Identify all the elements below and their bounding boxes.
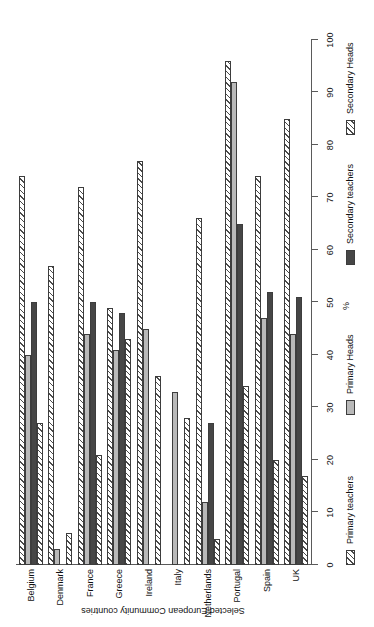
value-axis-line <box>311 40 312 565</box>
bar <box>267 292 273 565</box>
value-tick <box>311 144 318 145</box>
bar <box>225 61 231 565</box>
bar <box>48 266 54 565</box>
legend-item[interactable]: Secondary teachers <box>345 164 355 265</box>
legend-label: Primary teachers <box>345 476 355 544</box>
legend-swatch-icon <box>346 550 355 565</box>
legend-label: Primary Heads <box>345 334 355 394</box>
value-tick <box>311 302 318 303</box>
legend-item[interactable]: Primary Heads <box>345 334 355 415</box>
bar <box>196 219 202 566</box>
bar <box>296 297 302 565</box>
plot-area: 0102030405060708090100 BelgiumDenmarkFra… <box>16 40 311 565</box>
value-tick <box>311 564 318 565</box>
category-axis-title: Selected European Community countries <box>81 606 245 616</box>
legend-swatch-icon <box>346 400 355 415</box>
bar <box>19 177 25 566</box>
bar <box>54 549 60 565</box>
value-tick <box>311 459 318 460</box>
value-tick <box>311 354 318 355</box>
category-label: UK <box>291 569 301 582</box>
bar <box>66 534 72 566</box>
category-label: Italy <box>173 569 183 586</box>
bar <box>31 303 37 566</box>
value-tick <box>311 92 318 93</box>
bar <box>184 418 190 565</box>
value-tick <box>311 197 318 198</box>
bar <box>284 119 290 565</box>
category-label: Belgium <box>26 569 36 602</box>
bar <box>243 387 249 566</box>
bar <box>231 82 237 565</box>
category-label: Spain <box>262 569 272 592</box>
bar <box>78 187 84 565</box>
legend-item[interactable]: Secondary Heads <box>345 42 355 135</box>
plot-wrapper: 0102030405060708090100 BelgiumDenmarkFra… <box>0 0 374 627</box>
bar <box>90 303 96 566</box>
value-tick <box>311 249 318 250</box>
legend-label: Secondary teachers <box>345 164 355 244</box>
legend-swatch-icon <box>346 120 355 135</box>
bar <box>113 350 119 565</box>
bar <box>273 460 279 565</box>
bar <box>302 476 308 565</box>
category-label: Greece <box>114 569 124 599</box>
bar <box>237 224 243 565</box>
category-label: Ireland <box>144 569 154 597</box>
bar <box>107 308 113 565</box>
bar <box>172 392 178 565</box>
category-label: Portugal <box>232 569 242 603</box>
value-tick <box>311 512 318 513</box>
bar <box>25 355 31 565</box>
bar <box>155 376 161 565</box>
value-tick <box>311 39 318 40</box>
bar <box>208 423 214 565</box>
bar <box>125 339 131 565</box>
legend-label: Secondary Heads <box>345 42 355 114</box>
category-label: Denmark <box>55 569 65 606</box>
bar <box>84 334 90 565</box>
bar <box>37 423 43 565</box>
legend-item[interactable]: Primary teachers <box>345 476 355 565</box>
bar <box>290 334 296 565</box>
bar <box>96 455 102 565</box>
bar <box>255 177 261 566</box>
category-label: France <box>85 569 95 597</box>
bar <box>214 539 220 565</box>
bar <box>261 318 267 565</box>
chart-legend: Primary teachersPrimary HeadsSecondary t… <box>333 40 367 565</box>
bar <box>137 161 143 565</box>
bar <box>143 329 149 565</box>
chart-figure: 0102030405060708090100 BelgiumDenmarkFra… <box>0 0 374 627</box>
value-tick <box>311 407 318 408</box>
legend-swatch-icon <box>346 250 355 265</box>
bar <box>202 502 208 565</box>
bar <box>119 313 125 565</box>
